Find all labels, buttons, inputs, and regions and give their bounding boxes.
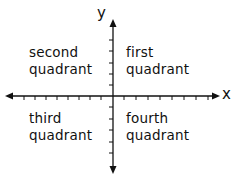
x-axis-label: x — [222, 87, 231, 102]
second-quadrant-line1: second — [29, 44, 92, 61]
y-axis-label: y — [97, 6, 106, 21]
fourth-quadrant-label: fourth quadrant — [126, 110, 189, 144]
third-quadrant-line2: quadrant — [29, 127, 92, 144]
y-axis-down-arrow-icon — [110, 166, 117, 174]
second-quadrant-label: second quadrant — [29, 44, 92, 78]
fourth-quadrant-line1: fourth — [126, 110, 189, 127]
y-axis-up-arrow-icon — [110, 19, 117, 27]
x-axis-right-arrow-icon — [212, 93, 220, 100]
coordinate-plane — [0, 0, 236, 177]
first-quadrant-label: first quadrant — [126, 44, 189, 78]
x-axis-left-arrow-icon — [5, 93, 13, 100]
third-quadrant-label: third quadrant — [29, 110, 92, 144]
second-quadrant-line2: quadrant — [29, 61, 92, 78]
fourth-quadrant-line2: quadrant — [126, 127, 189, 144]
third-quadrant-line1: third — [29, 110, 92, 127]
first-quadrant-line2: quadrant — [126, 61, 189, 78]
first-quadrant-line1: first — [126, 44, 189, 61]
